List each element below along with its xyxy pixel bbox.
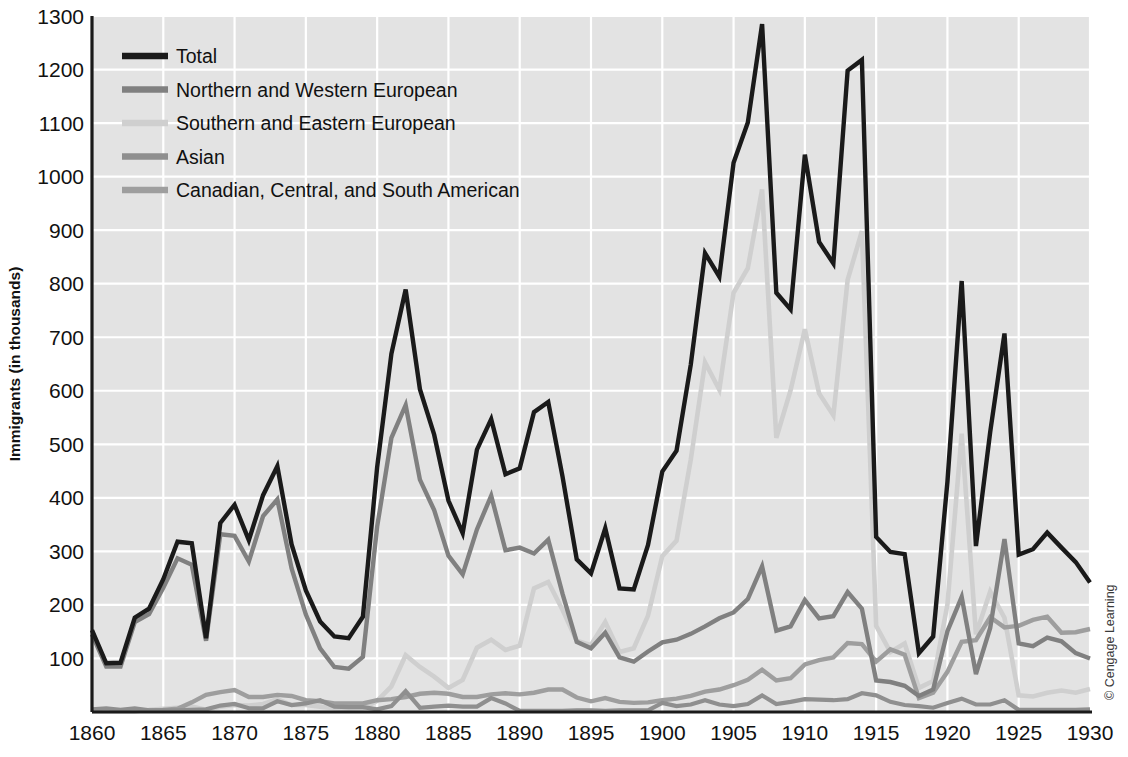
legend-label-total: Total	[176, 45, 217, 67]
x-tick-label-1915: 1915	[853, 721, 900, 744]
y-tick-label-400: 400	[49, 486, 84, 509]
x-tick-label-1885: 1885	[425, 721, 472, 744]
x-tick-label-1870: 1870	[211, 721, 258, 744]
x-tick-label-1920: 1920	[924, 721, 971, 744]
legend-label-northern-and-western-european: Northern and Western European	[176, 79, 457, 101]
y-tick-label-300: 300	[49, 540, 84, 563]
y-tick-label-800: 800	[49, 272, 84, 295]
x-tick-label-1900: 1900	[639, 721, 686, 744]
legend-label-canadian-central-and-south-american: Canadian, Central, and South American	[176, 179, 520, 201]
y-tick-label-1200: 1200	[37, 58, 84, 81]
legend-item-canadian-central-and-south-american[interactable]: Canadian, Central, and South American	[122, 179, 520, 201]
y-tick-label-700: 700	[49, 326, 84, 349]
x-axis-tick-labels: 1860186518701875188018851890189519001905…	[69, 721, 1114, 744]
x-tick-label-1905: 1905	[710, 721, 757, 744]
immigration-line-chart-figure: 1002003004005006007008009001000110012001…	[0, 0, 1128, 757]
copyright-credit: © Cengage Learning	[1103, 584, 1117, 700]
x-tick-label-1930: 1930	[1067, 721, 1114, 744]
y-axis-title: Immigrants (in thousands)	[6, 267, 23, 462]
x-tick-label-1910: 1910	[781, 721, 828, 744]
y-tick-label-1000: 1000	[37, 165, 84, 188]
y-tick-label-500: 500	[49, 433, 84, 456]
x-tick-label-1890: 1890	[496, 721, 543, 744]
x-tick-label-1880: 1880	[354, 721, 401, 744]
y-tick-label-1300: 1300	[37, 5, 84, 28]
x-tick-label-1875: 1875	[282, 721, 329, 744]
x-tick-label-1860: 1860	[69, 721, 116, 744]
chart-svg: 1002003004005006007008009001000110012001…	[0, 0, 1128, 757]
y-axis-tick-labels: 1002003004005006007008009001000110012001…	[37, 5, 84, 670]
y-tick-label-900: 900	[49, 219, 84, 242]
y-tick-label-1100: 1100	[39, 112, 84, 135]
y-tick-label-100: 100	[49, 647, 84, 670]
x-tick-label-1925: 1925	[995, 721, 1042, 744]
legend-label-asian: Asian	[176, 146, 225, 168]
y-tick-label-600: 600	[49, 379, 84, 402]
legend-label-southern-and-eastern-european: Southern and Eastern European	[176, 112, 456, 134]
y-tick-label-200: 200	[49, 593, 84, 616]
x-tick-label-1895: 1895	[568, 721, 615, 744]
x-tick-label-1865: 1865	[140, 721, 187, 744]
